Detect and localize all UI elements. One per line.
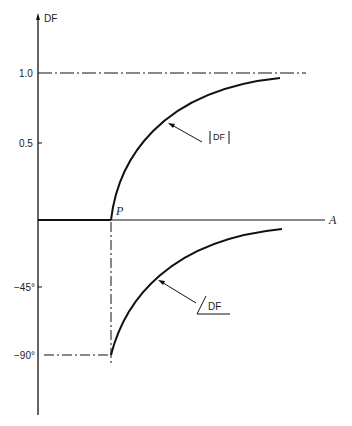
tick-label-1-0: 1.0	[19, 69, 33, 79]
magnitude-pointer	[170, 124, 202, 142]
magnitude-pointer-arrow-icon	[168, 123, 175, 128]
x-axis-label: A	[329, 214, 336, 226]
point-label: P	[116, 205, 123, 217]
phase-label: DF	[208, 302, 221, 312]
phase-pointer-arrow-icon	[158, 280, 165, 285]
diagram-canvas	[0, 0, 352, 426]
tick-label-minus90: −90°	[14, 351, 35, 361]
tick-label-minus45: −45°	[14, 283, 35, 293]
y-axis-label: DF	[44, 14, 57, 24]
magnitude-label: DF	[213, 133, 225, 142]
magnitude-curve	[111, 78, 280, 220]
y-axis-arrow-icon	[36, 13, 40, 20]
phase-pointer	[160, 281, 196, 303]
tick-label-0-5: 0.5	[19, 139, 33, 149]
phase-curve	[111, 229, 282, 355]
